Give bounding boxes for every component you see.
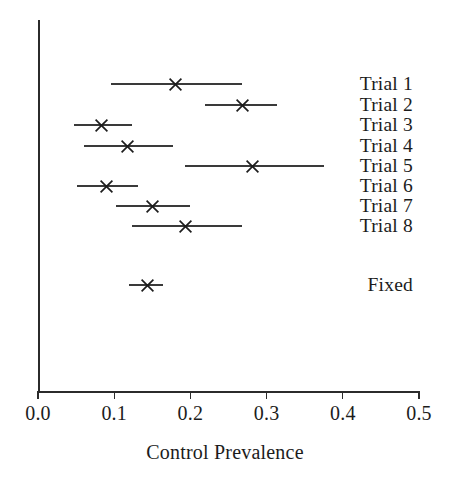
- estimate-marker-x-icon: [145, 199, 160, 214]
- x-tick-mark: [114, 391, 115, 399]
- row-label-trial-3: Trial 3: [360, 114, 413, 136]
- estimate-marker-x-icon: [94, 118, 109, 133]
- x-tick-mark: [37, 391, 38, 399]
- row-label-trial-6: Trial 6: [360, 175, 413, 197]
- row-label-trial-8: Trial 8: [360, 215, 413, 237]
- estimate-marker-x-icon: [140, 278, 155, 293]
- x-tick-label: 0.2: [178, 402, 204, 425]
- x-tick-mark: [342, 391, 343, 399]
- forest-plot: 0.00.10.20.30.40.5 Trial 1Trial 2Trial 3…: [0, 0, 450, 490]
- estimate-marker-x-icon: [120, 139, 135, 154]
- x-tick-label: 0.5: [406, 402, 432, 425]
- row-label-fixed: Fixed: [368, 274, 413, 296]
- row-label-trial-2: Trial 2: [360, 94, 413, 116]
- estimate-marker-x-icon: [245, 159, 260, 174]
- row-label-trial-4: Trial 4: [360, 135, 413, 157]
- x-tick-label: 0.1: [101, 402, 127, 425]
- x-tick-mark: [418, 391, 419, 399]
- estimate-marker-x-icon: [168, 77, 183, 92]
- row-label-trial-5: Trial 5: [360, 155, 413, 177]
- chart-plot-area: 0.00.10.20.30.40.5 Trial 1Trial 2Trial 3…: [0, 0, 450, 490]
- row-label-trial-7: Trial 7: [360, 195, 413, 217]
- x-axis-title: Control Prevalence: [0, 441, 450, 464]
- estimate-marker-x-icon: [235, 98, 250, 113]
- estimate-marker-x-icon: [99, 179, 114, 194]
- x-tick-label: 0.3: [254, 402, 280, 425]
- y-axis-line: [38, 20, 40, 392]
- row-label-trial-1: Trial 1: [360, 73, 413, 95]
- x-axis-line: [38, 391, 419, 393]
- x-tick-mark: [266, 391, 267, 399]
- estimate-marker-x-icon: [178, 219, 193, 234]
- x-tick-mark: [190, 391, 191, 399]
- x-tick-label: 0.0: [25, 402, 51, 425]
- x-tick-label: 0.4: [330, 402, 356, 425]
